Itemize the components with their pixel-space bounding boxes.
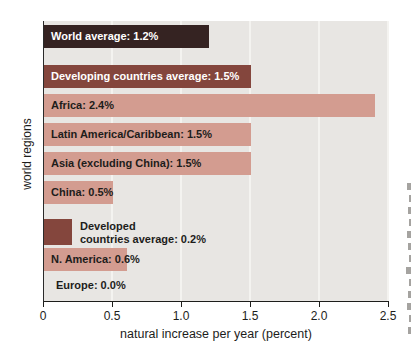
bar-developing-countries-average: Developing countries average: 1.5% [44,65,251,88]
bar-world-average: World average: 1.2% [44,25,209,48]
gridline-2.0 [318,21,320,301]
x-tick-mark-0 [43,302,44,307]
x-tick-label-2.0: 2.0 [311,309,328,323]
bar-label-africa: Africa: 2.4% [44,94,375,117]
page-edge-artifact [403,183,411,334]
x-tick-mark-2.0 [319,302,320,307]
edge-text-fragment [407,303,411,310]
edge-text-fragment [406,267,411,274]
developed-label-line-2: countries average: 0.2% [80,233,206,246]
bar-label-developing-countries-average: Developing countries average: 1.5% [44,65,251,88]
y-axis-label: world regions [20,118,34,189]
edge-text-fragment [407,183,411,190]
x-tick-label-1.5: 1.5 [242,309,259,323]
x-tick-mark-1.0 [181,302,182,307]
figure-natural-increase-chart: world regions World average: 1.2% Develo… [0,0,411,354]
developed-label-line-1: Developed [80,220,206,233]
bar-label-europe: Europe: 0.0% [56,279,126,292]
bar-label-china: China: 0.5% [44,181,113,204]
x-tick-label-0: 0 [40,309,47,323]
x-tick-label-1.0: 1.0 [173,309,190,323]
bar-label-n-america: N. America: 0.6% [44,248,127,271]
bar-label-latin-america-caribbean: Latin America/Caribbean: 1.5% [44,123,251,146]
edge-text-fragment [407,231,411,238]
x-tick-label-2.5: 2.5 [380,309,397,323]
bar-latin-america-caribbean: Latin America/Caribbean: 1.5% [44,123,251,146]
gridline-2.5 [387,21,389,301]
plot-area: World average: 1.2% Developing countries… [43,21,389,302]
bar-developed-countries-average [44,219,72,245]
bar-n-america: N. America: 0.6% [44,248,127,271]
bar-label-world-average: World average: 1.2% [44,25,209,48]
x-tick-label-0.5: 0.5 [104,309,121,323]
x-tick-mark-2.5 [388,302,389,307]
bar-asia-excluding-china: Asia (excluding China): 1.5% [44,152,251,175]
bar-africa: Africa: 2.4% [44,94,375,117]
x-tick-mark-1.5 [250,302,251,307]
bar-china: China: 0.5% [44,181,113,204]
x-tick-mark-0.5 [112,302,113,307]
bar-label-asia-excluding-china: Asia (excluding China): 1.5% [44,152,251,175]
bar-label-developed-countries-average: Developed countries average: 0.2% [80,220,206,245]
x-axis-label: natural increase per year (percent) [120,327,312,341]
